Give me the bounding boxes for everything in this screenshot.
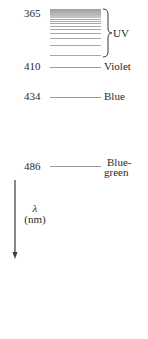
wavelength-label-410: 410 [24, 61, 41, 72]
spectral-line-434 [50, 97, 101, 98]
spectral-line-410 [50, 67, 101, 68]
color-label-line2: green [104, 167, 131, 177]
spectral-line-486 [50, 166, 101, 167]
color-label-blue: Blue [104, 91, 125, 102]
color-label-blue-green: Blue- green [104, 157, 131, 177]
uv-region-label: UV [113, 28, 129, 39]
axis-label: λ (nm) [20, 203, 50, 225]
wavelength-label-434: 434 [24, 91, 41, 102]
color-label-violet: Violet [104, 61, 131, 72]
axis-unit: (nm) [20, 214, 50, 225]
wavelength-label-486: 486 [24, 161, 41, 172]
